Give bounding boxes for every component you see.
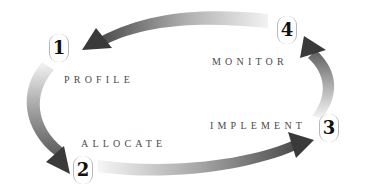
step-4-number: 4 [281, 21, 294, 39]
cycle-arrows [0, 0, 373, 196]
step-2-label: ALLOCATE [81, 139, 166, 149]
step-2-number: 2 [77, 161, 90, 179]
arrow-monitor-to-profile [82, 11, 268, 50]
step-3-number-badge: 3 [319, 114, 339, 142]
step-3-label: IMPLEMENT [210, 121, 306, 131]
step-2-number-badge: 2 [73, 156, 93, 184]
arrow-implement-to-monitor [300, 36, 334, 118]
step-1-label: PROFILE [64, 75, 134, 85]
step-3-number: 3 [323, 119, 336, 137]
step-1-number-badge: 1 [49, 34, 69, 62]
step-4-number-badge: 4 [277, 16, 297, 44]
step-1-number: 1 [53, 39, 66, 57]
step-4-label: MONITOR [212, 57, 288, 67]
cycle-diagram: 1 PROFILE 2 ALLOCATE 3 IMPLEMENT 4 MONIT… [0, 0, 373, 196]
